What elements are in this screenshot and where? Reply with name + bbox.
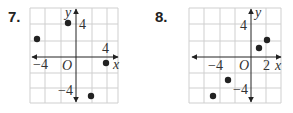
y-label-8: y [253, 5, 262, 20]
plot-7: −4 4 4 −4 O x y [30, 5, 120, 103]
origin-8: O [239, 58, 249, 73]
coordinate-planes: −4 4 4 −4 O x y [0, 0, 293, 113]
x-tick-neg-8: −4 [208, 58, 223, 73]
point [256, 45, 262, 51]
x-label-8: x [274, 58, 282, 73]
y-label-7: y [63, 5, 72, 20]
point [34, 36, 40, 42]
origin-7: O [62, 58, 72, 73]
y-tick-neg-8: −4 [233, 82, 248, 97]
y-tick-pos-8: 4 [240, 18, 247, 33]
x-tick-pos-7: 4 [102, 41, 109, 56]
plot-8: −4 2 4 −4 O x y [189, 5, 282, 103]
point [264, 37, 270, 43]
x-tick-neg-7: −4 [33, 57, 48, 72]
x-label-7: x [112, 57, 120, 72]
point [210, 93, 216, 99]
y-tick-neg-7: −4 [58, 83, 73, 98]
point [88, 93, 94, 99]
y-tick-pos-7: 4 [79, 17, 86, 32]
point [65, 20, 71, 26]
point [225, 77, 231, 83]
point [103, 60, 109, 66]
x-tick-pos-8: 2 [263, 58, 270, 73]
